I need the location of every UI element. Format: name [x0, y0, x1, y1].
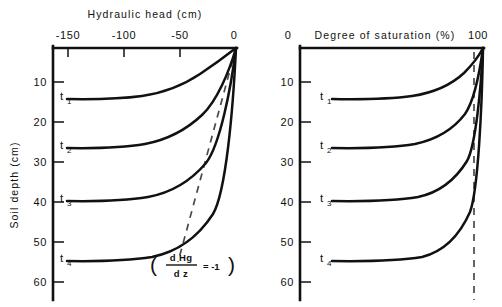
curve-label-t2-left: t 2 [60, 139, 72, 155]
right-ytick-label-10: 10 [281, 76, 294, 88]
curve-t3-left [67, 48, 236, 201]
svg-text:t: t [320, 192, 324, 204]
left-ytick-label-60: 60 [34, 276, 47, 288]
curve-t1-right [332, 48, 483, 99]
left-ytick-label-10: 10 [34, 76, 47, 88]
svg-text:1: 1 [67, 97, 72, 106]
right-xtick-label-0: 0 [285, 29, 292, 41]
curve-label-t3-right: t 3 [320, 192, 332, 208]
right-xtick-label-100: 100 [468, 29, 488, 41]
curve-t4-right [332, 48, 483, 261]
annotation-numerator: d Hg [170, 252, 193, 263]
svg-text:4: 4 [327, 259, 332, 268]
curve-label-t1-right: t 1 [320, 90, 332, 106]
svg-text:t: t [60, 139, 64, 151]
left-panel: Hydraulic head (cm) -150 -100 -50 0 10 2… [8, 8, 237, 300]
right-ytick-label-40: 40 [281, 196, 294, 208]
svg-text:t: t [60, 90, 64, 102]
soil-moisture-profile-figure: Hydraulic head (cm) -150 -100 -50 0 10 2… [0, 0, 502, 307]
annotation-denominator: d z [174, 268, 188, 279]
annotation-close-paren: ) [228, 253, 235, 276]
left-xtick-label-1: -100 [112, 29, 136, 41]
curve-label-t4-left: t 4 [60, 252, 72, 268]
left-ytick-label-50: 50 [34, 236, 47, 248]
right-panel: Degree of saturation (%) 0 100 10 20 30 … [281, 29, 489, 300]
svg-text:1: 1 [327, 97, 332, 106]
svg-text:3: 3 [67, 199, 72, 208]
curve-t3-right [332, 48, 483, 201]
curve-label-t2-right: t 2 [320, 139, 332, 155]
svg-text:t: t [60, 252, 64, 264]
left-xtick-label-0: -150 [56, 29, 80, 41]
svg-text:4: 4 [67, 259, 72, 268]
svg-text:2: 2 [327, 146, 332, 155]
left-ytick-label-20: 20 [34, 116, 47, 128]
left-ytick-label-30: 30 [34, 156, 47, 168]
left-axis-title: Hydraulic head (cm) [88, 8, 203, 20]
right-ytick-label-20: 20 [281, 116, 294, 128]
svg-text:t: t [320, 139, 324, 151]
gradient-annotation: ( d Hg d z = -1 ) [150, 252, 235, 279]
curve-label-t3-left: t 3 [60, 192, 72, 208]
left-xtick-label-3: 0 [231, 29, 238, 41]
svg-text:t: t [320, 252, 324, 264]
right-axis-title: Degree of saturation (%) [315, 29, 456, 41]
svg-text:2: 2 [67, 146, 72, 155]
annotation-equals: = -1 [203, 261, 220, 272]
figure-root: Hydraulic head (cm) -150 -100 -50 0 10 2… [0, 0, 502, 307]
annotation-open-paren: ( [150, 253, 157, 276]
right-ytick-label-50: 50 [281, 236, 294, 248]
svg-text:3: 3 [327, 199, 332, 208]
right-ytick-label-60: 60 [281, 276, 294, 288]
curve-label-t4-right: t 4 [320, 252, 332, 268]
y-axis-title: Soil depth (cm) [8, 141, 20, 228]
svg-text:t: t [320, 90, 324, 102]
right-ytick-label-30: 30 [281, 156, 294, 168]
curve-t1-left [67, 48, 236, 99]
left-xtick-label-2: -50 [171, 29, 189, 41]
curve-label-t1-left: t 1 [60, 90, 72, 106]
left-ytick-label-40: 40 [34, 196, 47, 208]
